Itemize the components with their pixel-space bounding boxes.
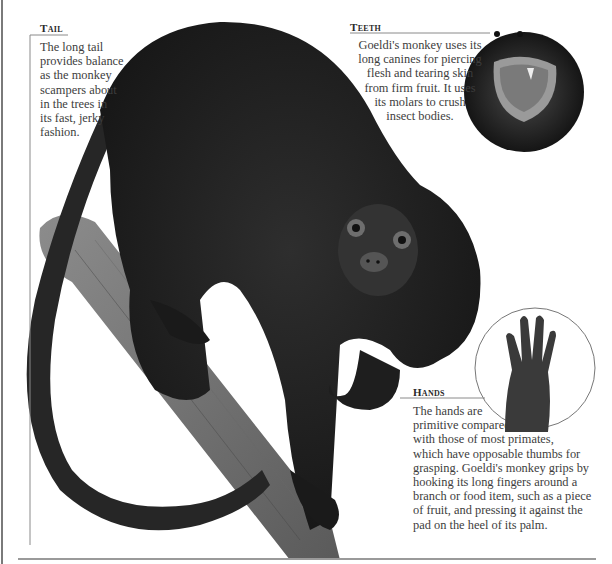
tail-line: as the monkey — [40, 68, 112, 82]
tail-line: scampers about — [40, 83, 117, 97]
callout-hands: Hands The hands are primitive compared w… — [413, 386, 603, 532]
teeth-line: from firm fruit. It uses — [364, 81, 475, 95]
callout-tail: Tail The long tail provides balance as t… — [40, 22, 125, 139]
teeth-line: long canines for piercing — [358, 52, 482, 66]
hands-heading: Hands — [413, 386, 603, 399]
callout-teeth: Teeth Goeldi's monkey uses its long cani… — [350, 21, 490, 123]
tail-line: The long tail — [40, 40, 103, 54]
hands-line: pad on the heel of its palm. — [413, 518, 548, 532]
teeth-body: Goeldi's monkey uses its long canines fo… — [350, 38, 490, 123]
curled-hand — [329, 350, 400, 410]
tail-line: provides balance — [40, 54, 124, 68]
tail-heading: Tail — [40, 22, 125, 35]
tail-body: The long tail provides balance as the mo… — [40, 40, 125, 139]
bottom-rule-divider — [18, 558, 596, 560]
hands-line: with those of most primates, — [413, 432, 554, 446]
hands-line: grasping. Goeldi's monkey grips by — [413, 461, 589, 475]
hands-line: of fruit, and pressing it against the — [413, 503, 583, 517]
hands-line: branch or food item, such as a piece — [413, 489, 591, 503]
hands-line: primitive compared — [413, 418, 510, 432]
tail-line: fashion. — [40, 125, 80, 139]
tail-line: in the trees in — [40, 97, 107, 111]
hands-line: The hands are — [413, 404, 483, 418]
hands-line: hooking its long fingers around a — [413, 475, 577, 489]
monkey-face — [338, 204, 418, 296]
teeth-line: Goeldi's monkey uses its — [358, 38, 481, 52]
teeth-line: insect bodies. — [386, 109, 453, 123]
hands-line: which have opposable thumbs for — [413, 447, 580, 461]
teeth-heading: Teeth — [350, 21, 490, 34]
teeth-line: flesh and tearing skin — [367, 66, 473, 80]
tail-line: its fast, jerky — [40, 111, 104, 125]
hands-body: The hands are primitive compared with th… — [413, 404, 603, 532]
teeth-line: its molars to crush — [374, 95, 465, 109]
